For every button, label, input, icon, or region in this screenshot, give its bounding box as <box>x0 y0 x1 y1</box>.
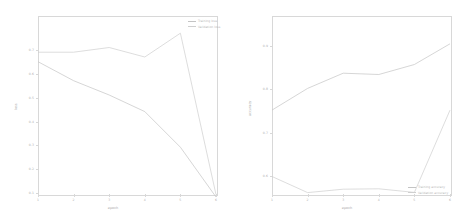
accuracy-xtick-mark <box>379 194 380 197</box>
legend-label: Validation accuracy <box>418 191 448 195</box>
loss-xtick-label: 5 <box>174 198 186 202</box>
loss-val-line <box>38 33 216 194</box>
loss-xtick-mark <box>216 194 217 197</box>
loss-xtick-label: 1 <box>32 198 44 202</box>
loss-ytick-mark <box>36 122 39 123</box>
accuracy-xtick-label: 5 <box>408 198 420 202</box>
loss-ytick-label: 0.6 <box>22 72 34 76</box>
accuracy-ytick-label: 0.6 <box>256 174 268 178</box>
legend-line-icon <box>408 192 416 193</box>
accuracy-xtick-mark <box>450 194 451 197</box>
accuracy-ytick-mark <box>270 133 273 134</box>
legend-label: Validation loss <box>198 25 220 29</box>
loss-xtick-label: 3 <box>103 198 115 202</box>
loss-train-line <box>38 62 216 197</box>
legend-item-training-loss: Training loss <box>188 19 220 23</box>
accuracy-xaxis-title: epoch <box>342 206 352 210</box>
loss-chart-panel: 0.7 0.6 0.5 0.4 0.3 0.2 0.1 1 2 3 4 5 6 … <box>0 0 234 223</box>
accuracy-ytick-mark <box>270 46 273 47</box>
accuracy-ytick-mark <box>270 89 273 90</box>
loss-ytick-label: 0.3 <box>22 143 34 147</box>
legend-line-icon <box>188 26 196 27</box>
accuracy-xtick-label: 6 <box>444 198 456 202</box>
accuracy-xtick-label: 4 <box>373 198 385 202</box>
accuracy-yaxis-title: accuracy <box>248 101 252 116</box>
loss-ytick-label: 0.4 <box>22 120 34 124</box>
legend-label: Training accuracy <box>418 185 445 189</box>
legend-item-validation-accuracy: Validation accuracy <box>408 191 448 195</box>
loss-ytick-mark <box>36 145 39 146</box>
legend-line-icon <box>188 21 196 22</box>
accuracy-chart-panel: 0.9 0.8 0.7 0.6 1 2 3 4 5 6 epoch accura… <box>234 0 468 223</box>
loss-ytick-label: 0.7 <box>22 48 34 52</box>
training-history-figure: 0.7 0.6 0.5 0.4 0.3 0.2 0.1 1 2 3 4 5 6 … <box>0 0 468 223</box>
loss-xtick-label: 6 <box>210 198 222 202</box>
accuracy-ytick-label: 0.9 <box>256 44 268 48</box>
accuracy-xtick-mark <box>308 194 309 197</box>
loss-xtick-label: 4 <box>139 198 151 202</box>
loss-ytick-label: 0.2 <box>22 167 34 171</box>
accuracy-ytick-mark <box>270 176 273 177</box>
loss-yaxis-title: loss <box>14 103 18 110</box>
accuracy-train-line <box>272 44 450 110</box>
loss-series-layer <box>0 0 234 223</box>
loss-ytick-label: 0.5 <box>22 96 34 100</box>
accuracy-xtick-mark <box>272 194 273 197</box>
loss-ytick-mark <box>36 50 39 51</box>
loss-xtick-mark <box>145 194 146 197</box>
loss-ytick-mark <box>36 74 39 75</box>
loss-xtick-label: 2 <box>68 198 80 202</box>
legend-item-training-accuracy: Training accuracy <box>408 185 448 189</box>
legend-line-icon <box>408 187 416 188</box>
accuracy-legend: Training accuracy Validation accuracy <box>408 185 448 195</box>
accuracy-ytick-label: 0.7 <box>256 131 268 135</box>
accuracy-xtick-label: 2 <box>302 198 314 202</box>
accuracy-xtick-label: 3 <box>337 198 349 202</box>
accuracy-xtick-mark <box>343 194 344 197</box>
loss-xtick-mark <box>180 194 181 197</box>
loss-ytick-mark <box>36 169 39 170</box>
accuracy-xtick-label: 1 <box>266 198 278 202</box>
loss-xtick-mark <box>109 194 110 197</box>
loss-xtick-mark <box>74 194 75 197</box>
loss-legend: Training loss Validation loss <box>188 19 220 29</box>
accuracy-ytick-label: 0.8 <box>256 87 268 91</box>
legend-item-validation-loss: Validation loss <box>188 25 220 29</box>
loss-xtick-mark <box>38 194 39 197</box>
loss-ytick-label: 0.1 <box>22 191 34 195</box>
loss-ytick-mark <box>36 98 39 99</box>
loss-xaxis-title: epoch <box>108 206 118 210</box>
legend-label: Training loss <box>198 19 217 23</box>
accuracy-val-line <box>272 110 450 193</box>
